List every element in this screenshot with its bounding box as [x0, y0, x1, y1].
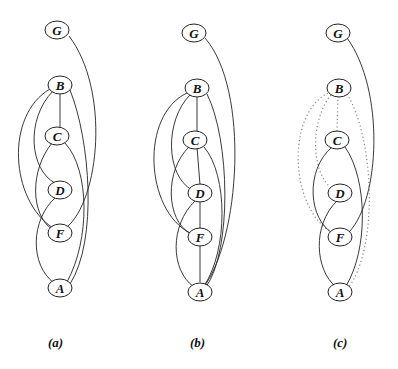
node-b: B [185, 79, 209, 97]
svg-text:B: B [192, 81, 202, 96]
caption-c: (c) [333, 335, 347, 350]
edge-b-c-dotted [337, 96, 338, 131]
node-c: C [325, 131, 349, 149]
svg-text:A: A [335, 285, 345, 300]
svg-text:G: G [189, 26, 199, 41]
edge-b-a [70, 90, 88, 284]
svg-text:G: G [52, 23, 62, 38]
node-f: F [188, 228, 212, 246]
caption-b: (b) [190, 335, 205, 350]
svg-text:D: D [334, 186, 345, 201]
svg-text:C: C [191, 133, 200, 148]
svg-text:F: F [335, 230, 345, 245]
svg-text:G: G [333, 26, 343, 41]
node-a: A [48, 279, 72, 297]
node-g: G [45, 21, 69, 39]
node-g: G [182, 24, 206, 42]
edge-c-d [197, 147, 200, 185]
node-a: A [328, 283, 352, 301]
svg-text:B: B [334, 81, 344, 96]
node-d: D [48, 181, 72, 199]
node-b: B [48, 76, 72, 94]
node-b: B [327, 79, 351, 97]
svg-text:D: D [54, 183, 65, 198]
edge-g-a [203, 38, 235, 288]
svg-text:F: F [55, 226, 65, 241]
panel-c: G B C D F A (c) [298, 24, 374, 350]
svg-text:A: A [195, 285, 205, 300]
svg-text:F: F [195, 230, 205, 245]
edge-c-a [65, 143, 84, 282]
edge-g-f [347, 38, 374, 232]
node-c: C [45, 127, 69, 145]
svg-text:B: B [55, 78, 65, 93]
caption-a: (a) [48, 335, 63, 350]
node-d: D [328, 184, 352, 202]
node-c: C [183, 131, 207, 149]
node-f: F [328, 228, 352, 246]
node-f: F [48, 224, 72, 242]
svg-text:C: C [53, 129, 62, 144]
panel-b: G B C D F A (b) [154, 24, 235, 350]
node-g: G [326, 24, 350, 42]
edge-b-f [154, 93, 190, 233]
panel-a: G B C D F A (a) [18, 21, 95, 350]
svg-text:C: C [333, 133, 342, 148]
node-a: A [188, 283, 212, 301]
graph-figure: G B C D F A (a) G B C D F A (b) [0, 0, 398, 369]
edge-b-f [18, 89, 53, 228]
svg-text:D: D [194, 186, 205, 201]
node-d: D [188, 184, 212, 202]
edge-g-f [66, 36, 96, 228]
svg-text:A: A [55, 281, 65, 296]
edge-c-a [204, 147, 222, 286]
